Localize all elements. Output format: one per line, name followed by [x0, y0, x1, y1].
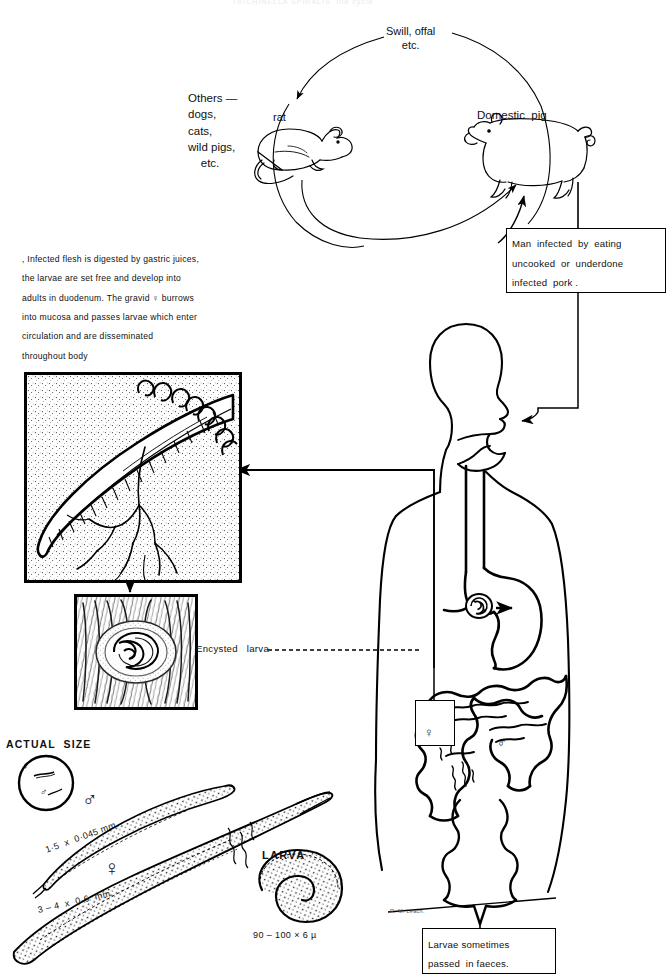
muscle-mucosa-panel: [24, 372, 242, 583]
swill-offal-label: Swill, offal etc.: [386, 24, 435, 52]
larva-heading: LARVA: [262, 848, 305, 862]
male-worm-symbol: ♂: [82, 786, 98, 813]
artist-signature: R. M. Leach.: [390, 908, 425, 915]
actual-size-heading: ACTUAL SIZE: [6, 738, 91, 751]
abdomen-callout-box: [415, 700, 455, 746]
larva-measurement: 90 – 100 × 6 µ: [253, 930, 317, 942]
rat-label: rat: [273, 110, 286, 124]
intestine-male-symbol: ♂: [497, 735, 507, 752]
domestic-pig-label: Domestic pig: [477, 108, 547, 123]
diagram-canvas: TRICHINELLA SPIRALIS life cycle: [0, 0, 672, 979]
encysted-larva-label: Encysted larva: [196, 643, 269, 655]
man-infected-text: Man infected by eating uncooked or under…: [512, 234, 658, 293]
infection-description-paragraph: , Infected flesh is digested by gastric …: [22, 250, 199, 366]
encysted-larva-artwork: [77, 597, 195, 707]
female-worm-symbol: ♀: [104, 855, 120, 882]
muscle-mucosa-artwork: [27, 375, 239, 580]
intestine-female-symbol: ♀: [424, 725, 434, 742]
actual-size-female-symbol: ♀: [22, 760, 30, 773]
encysted-larva-panel: [74, 594, 198, 710]
actual-size-male-symbol: ♂: [40, 786, 48, 799]
faeces-text: Larvae sometimes passed in faeces.: [428, 935, 548, 973]
others-hosts-label: Others — dogs, cats, wild pigs, etc.: [188, 90, 237, 172]
